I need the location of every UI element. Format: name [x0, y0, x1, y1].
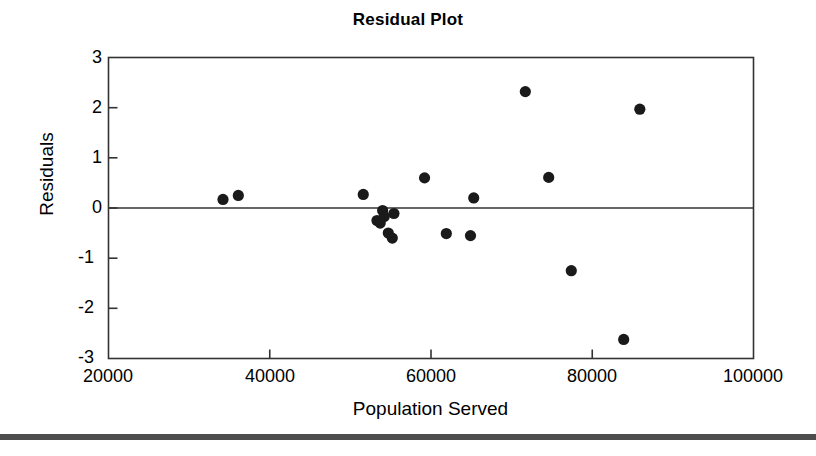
scatter-point	[379, 211, 390, 222]
x-axis-label: Population Served	[108, 398, 753, 420]
x-tick-label: 80000	[532, 366, 652, 387]
plot-canvas	[0, 0, 816, 456]
x-tick-label: 100000	[693, 366, 813, 387]
scatter-points	[217, 86, 645, 345]
y-tick-label: 2	[60, 97, 102, 118]
scatter-point	[520, 86, 531, 97]
scatter-point	[233, 190, 244, 201]
y-tick-label: -2	[52, 297, 94, 318]
scatter-point	[634, 104, 645, 115]
y-tick-label: -1	[52, 247, 94, 268]
scatter-point	[441, 228, 452, 239]
scatter-point	[566, 265, 577, 276]
y-axis-ticks	[109, 108, 118, 309]
residual-plot-figure: Residual Plot 3 2 1 0 -1 -2 -3 20000 400…	[0, 0, 816, 456]
scatter-point	[618, 334, 629, 345]
scatter-point	[465, 230, 476, 241]
scatter-point	[387, 233, 398, 244]
scatter-point	[388, 208, 399, 219]
scatter-point	[468, 192, 479, 203]
y-axis-label: Residuals	[36, 94, 58, 254]
y-tick-label: 0	[60, 197, 102, 218]
scatter-point	[217, 194, 228, 205]
y-tick-label: -3	[52, 347, 94, 368]
footer-strip-lower	[0, 440, 816, 456]
y-tick-label: 1	[60, 147, 102, 168]
x-axis-ticks	[270, 350, 593, 359]
scatter-point	[543, 172, 554, 183]
scatter-point	[358, 189, 369, 200]
x-tick-label: 40000	[210, 366, 330, 387]
x-tick-label: 60000	[371, 366, 491, 387]
scatter-point	[419, 172, 430, 183]
y-tick-label: 3	[60, 47, 102, 68]
x-tick-label: 20000	[48, 366, 168, 387]
